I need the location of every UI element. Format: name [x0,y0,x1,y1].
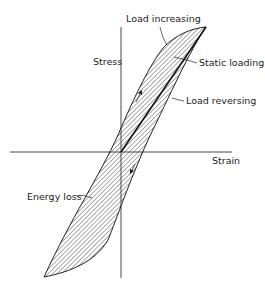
load-increasing-leader [160,27,167,45]
y-axis-label: Stress [93,56,122,67]
static-loading-label: Static loading [199,57,264,68]
load-reversing-label: Load reversing [186,95,256,106]
energy-loss-label: Energy loss [27,191,82,202]
load-reversing-leader [172,98,184,101]
hysteresis-diagram: Stress Strain Load increasing Static loa… [0,0,265,288]
load-increasing-label: Load increasing [126,13,201,24]
static-loading-line [121,27,206,152]
x-axis-label: Strain [212,155,240,166]
